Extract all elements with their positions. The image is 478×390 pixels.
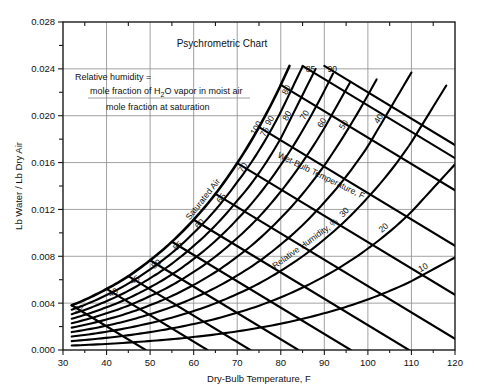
y-axis-title: Lb Water / Lb Dry Air	[13, 142, 24, 230]
y-tick-label: 0.028	[31, 16, 55, 27]
annotation-line-1: Relative humidity =	[75, 72, 151, 82]
x-tick-label: 80	[275, 357, 286, 368]
annotation-denominator: mole fraction at saturation	[106, 102, 210, 112]
chart-title: Psychrometric Chart	[177, 38, 268, 49]
y-tick-label: 0.012	[31, 204, 55, 215]
x-tick-label: 110	[404, 357, 419, 368]
annotation-numerator-part1: mole fraction of H	[90, 86, 161, 96]
x-tick-label: 30	[58, 357, 69, 368]
y-tick-label: 0.000	[31, 344, 55, 355]
y-tick-label: 0.004	[31, 298, 55, 309]
x-tick-label: 120	[447, 357, 463, 368]
annotation-numerator: mole fraction of H2O vapor in moist air	[90, 86, 242, 98]
x-tick-label: 100	[360, 357, 376, 368]
chart-canvas: 304050607080901001101200.0000.0040.0080.…	[0, 0, 478, 390]
x-axis-title: Dry-Bulb Temperature, F	[207, 373, 311, 384]
x-tick-label: 50	[145, 357, 156, 368]
x-tick-label: 40	[101, 357, 112, 368]
x-tick-label: 90	[319, 357, 330, 368]
y-tick-label: 0.016	[31, 157, 55, 168]
y-tick-label: 0.020	[31, 110, 55, 121]
y-tick-label: 0.024	[31, 63, 55, 74]
wet-bulb-label-90: 90	[328, 64, 338, 74]
annotation-numerator-part2: O vapor in moist air	[164, 86, 242, 96]
x-tick-label: 70	[232, 357, 243, 368]
wet-bulb-label-85: 85	[306, 64, 316, 74]
psychrometric-chart: 304050607080901001101200.0000.0040.0080.…	[0, 0, 478, 390]
y-tick-label: 0.008	[31, 251, 55, 262]
x-tick-label: 60	[188, 357, 199, 368]
